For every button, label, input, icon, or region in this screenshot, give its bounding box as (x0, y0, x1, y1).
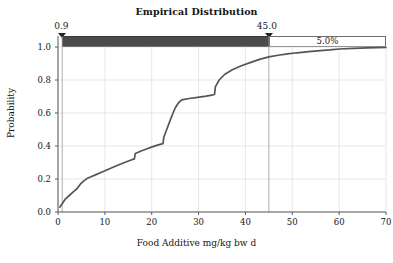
x-tick-label: 50 (280, 217, 304, 227)
y-tick-label: 0.4 (29, 141, 51, 151)
y-tick-label: 0.6 (29, 108, 51, 118)
x-tick-label: 60 (327, 217, 351, 227)
chart-figure: Empirical Distribution 0.9 45.0 5.0% 0.0… (0, 0, 393, 263)
gridlines (58, 47, 386, 212)
x-tick-label: 10 (93, 217, 117, 227)
data-series (60, 48, 386, 208)
x-tick-label: 70 (374, 217, 393, 227)
y-tick-label: 1.0 (29, 42, 51, 52)
y-tick-label: 0.0 (29, 207, 51, 217)
series-line-0 (60, 48, 386, 208)
x-tick-label: 20 (140, 217, 164, 227)
x-tick-label: 40 (233, 217, 257, 227)
reference-lines (62, 36, 269, 212)
y-axis-title: Probability (6, 68, 16, 158)
y-tick-label: 0.2 (29, 174, 51, 184)
x-tick-label: 30 (187, 217, 211, 227)
x-axis-title: Food Additive mg/kg bw d (0, 238, 393, 248)
x-tick-label: 0 (46, 217, 70, 227)
axis-lines (58, 36, 386, 212)
y-tick-label: 0.8 (29, 75, 51, 85)
